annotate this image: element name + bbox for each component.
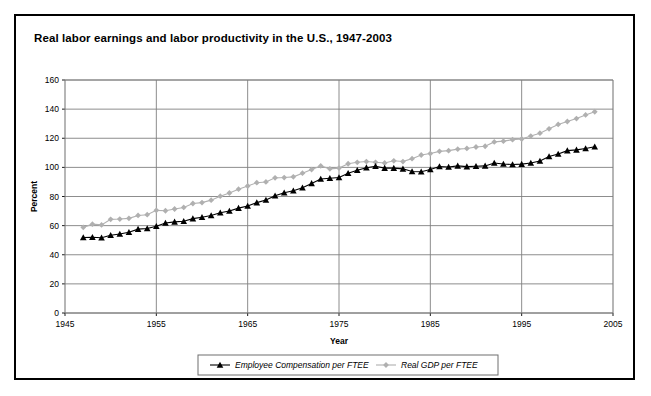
y-tick-label: 60 [50, 221, 60, 231]
y-tick-label: 0 [54, 308, 59, 318]
x-tick-label: 1955 [147, 319, 166, 329]
x-tick-label: 1965 [238, 319, 257, 329]
legend-label: Real GDP per FTEE [401, 360, 478, 370]
y-tick-label: 20 [50, 279, 60, 289]
x-tick-label: 2005 [604, 319, 623, 329]
chart-legend: Employee Compensation per FTEEReal GDP p… [198, 355, 498, 375]
y-tick-label: 160 [45, 75, 59, 85]
line-chart: 0204060801001201401601945195519651975198… [16, 16, 637, 382]
chart-plot-area: 0204060801001201401601945195519651975198… [16, 16, 637, 382]
x-tick-label: 1995 [512, 319, 531, 329]
x-tick-label: 1985 [421, 319, 440, 329]
x-tick-label: 1975 [330, 319, 349, 329]
legend-label: Employee Compensation per FTEE [235, 360, 369, 370]
y-axis-title: Percent [29, 181, 39, 212]
x-axis-title: Year [330, 336, 349, 346]
figure-frame: Real labor earnings and labor productivi… [14, 14, 635, 380]
y-tick-label: 80 [50, 192, 60, 202]
y-axis-title-group: Percent [29, 181, 39, 212]
x-tick-label: 1945 [56, 319, 75, 329]
y-tick-label: 100 [45, 162, 59, 172]
y-tick-label: 120 [45, 133, 59, 143]
y-tick-label: 40 [50, 250, 60, 260]
y-tick-label: 140 [45, 104, 59, 114]
